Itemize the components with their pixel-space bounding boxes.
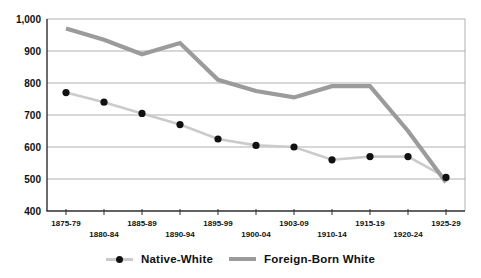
x-axis-tick-label: 1885-89	[127, 219, 157, 228]
y-axis-tick-label: 400	[24, 206, 41, 217]
data-point	[62, 89, 69, 96]
native-white-line	[66, 93, 446, 178]
x-axis-labels: 1875-791880-841885-891890-941895-991900-…	[51, 219, 461, 239]
data-point	[404, 153, 411, 160]
data-point	[442, 174, 449, 181]
y-axis-tick-label: 800	[24, 78, 41, 89]
legend: Native-White Foreign-Born White	[0, 249, 481, 269]
data-point	[328, 156, 335, 163]
y-axis-tick-label: 500	[24, 174, 41, 185]
y-axis-tick-label: 1,000	[16, 14, 41, 25]
native-white-points	[62, 89, 449, 181]
x-axis-tick-label: 1925-29	[431, 219, 461, 228]
data-point	[290, 143, 297, 150]
x-axis-tick-label: 1890-94	[165, 230, 195, 239]
y-axis-labels: 4005006007008009001,000	[16, 14, 41, 217]
x-axis-tick-label: 1920-24	[393, 230, 423, 239]
data-point	[252, 142, 259, 149]
chart-container: 4005006007008009001,0001875-791880-84188…	[0, 0, 481, 278]
legend-label-foreign-born-white: Foreign-Born White	[264, 253, 375, 265]
y-axis-tick-label: 700	[24, 110, 41, 121]
x-axis-tick-label: 1915-19	[355, 219, 385, 228]
native-white-line-marker-icon	[106, 255, 133, 264]
data-point	[176, 121, 183, 128]
x-axis-tick-label: 1903-09	[279, 219, 309, 228]
x-axis-tick-label: 1880-84	[89, 230, 119, 239]
data-point	[100, 99, 107, 106]
legend-dot-icon	[116, 256, 123, 263]
data-point	[214, 135, 221, 142]
y-axis-tick-label: 900	[24, 46, 41, 57]
legend-item-foreign-born-white: Foreign-Born White	[229, 253, 375, 265]
line-chart-plot: 4005006007008009001,0001875-791880-84188…	[0, 0, 481, 248]
foreign-born-white-line	[66, 29, 446, 183]
x-axis-tick-label: 1895-99	[203, 219, 233, 228]
foreign-born-white-line-marker-icon	[229, 257, 256, 261]
legend-item-native-white: Native-White	[106, 253, 213, 265]
y-axis-tick-label: 600	[24, 142, 41, 153]
x-axis-tick-label: 1910-14	[317, 230, 347, 239]
x-axis-tick-label: 1875-79	[51, 219, 81, 228]
data-point	[138, 110, 145, 117]
x-axis-tick-label: 1900-04	[241, 230, 271, 239]
legend-label-native-white: Native-White	[141, 253, 213, 265]
x-axis-ticks	[66, 209, 446, 215]
data-point	[366, 153, 373, 160]
